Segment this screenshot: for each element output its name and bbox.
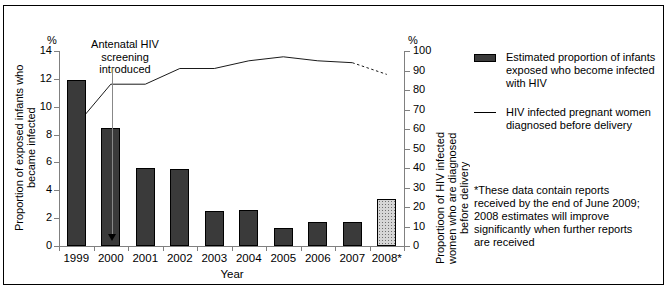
right-tick-label: 0 <box>413 239 419 251</box>
x-tick <box>163 247 164 251</box>
x-axis-title: Year <box>59 268 405 280</box>
right-axis-title: Proportioon of HIV infected women who ar… <box>434 118 462 278</box>
x-tick <box>370 247 371 251</box>
right-tick-label: 90 <box>413 64 425 76</box>
legend: Estimated proportion of infants exposed … <box>474 51 659 148</box>
x-tick <box>301 247 302 251</box>
legend-line-swatch-icon <box>474 112 496 113</box>
left-axis-title: Proportion of exposed infants who became… <box>13 44 43 252</box>
right-tick <box>405 168 410 169</box>
bar-2003 <box>205 211 224 246</box>
bar-2000 <box>101 128 120 246</box>
right-tick-label: 80 <box>413 83 425 95</box>
legend-item-line: HIV infected pregnant women diagnosed be… <box>474 106 659 132</box>
right-tick-label: 50 <box>413 142 425 154</box>
right-tick-label: 100 <box>413 44 431 56</box>
right-tick-label: 30 <box>413 181 425 193</box>
bar-2007 <box>343 222 362 246</box>
line-segment-projected <box>352 63 387 75</box>
right-tick <box>405 110 410 111</box>
bar-2006 <box>308 222 327 246</box>
annotation-arrow-head <box>108 234 116 241</box>
x-tick-label-2008: 2008* <box>366 252 409 264</box>
x-tick <box>404 247 405 251</box>
chart-frame: % % 02468101214 0102030405060708090100 1… <box>3 5 664 285</box>
right-tick <box>405 90 410 91</box>
legend-item-bar: Estimated proportion of infants exposed … <box>474 51 659 90</box>
footnote: *These data contain reports received by … <box>474 184 644 249</box>
right-tick <box>405 51 410 52</box>
legend-item-bar-label: Estimated proportion of infants exposed … <box>506 51 655 89</box>
annotation-antenatal-screening: Antenatal HIV screening introduced <box>79 38 171 76</box>
bar-2005 <box>274 228 293 246</box>
bar-2002 <box>170 169 189 246</box>
right-tick-label: 10 <box>413 220 425 232</box>
x-tick <box>94 247 95 251</box>
right-tick <box>405 227 410 228</box>
bar-2008 <box>377 199 396 246</box>
right-tick-label: 60 <box>413 122 425 134</box>
x-tick <box>335 247 336 251</box>
bar-2001 <box>136 168 155 246</box>
bar-1999 <box>67 80 86 246</box>
right-tick-label: 70 <box>413 103 425 115</box>
right-tick <box>405 246 410 247</box>
right-tick <box>405 207 410 208</box>
right-tick <box>405 71 410 72</box>
plot-area <box>59 51 404 246</box>
annotation-arrow-shaft <box>112 68 113 238</box>
legend-item-line-label: HIV infected pregnant women diagnosed be… <box>506 106 651 131</box>
right-tick-label: 20 <box>413 200 425 212</box>
right-tick <box>405 129 410 130</box>
right-tick <box>405 149 410 150</box>
x-tick <box>59 247 60 251</box>
x-tick <box>266 247 267 251</box>
bar-2004 <box>239 210 258 246</box>
right-tick <box>405 188 410 189</box>
x-tick <box>128 247 129 251</box>
x-tick <box>232 247 233 251</box>
x-tick <box>197 247 198 251</box>
right-tick-label: 40 <box>413 161 425 173</box>
legend-bar-swatch-icon <box>474 54 496 62</box>
